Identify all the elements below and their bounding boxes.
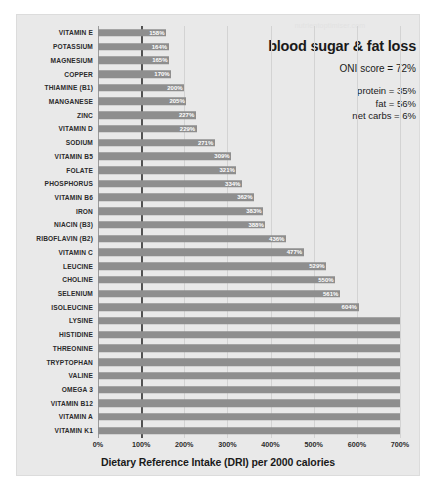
bar xyxy=(98,372,400,380)
bar xyxy=(98,386,400,394)
bar-row: ZINC227% xyxy=(24,108,404,122)
bar xyxy=(98,166,236,174)
bar-track: 334% xyxy=(98,177,404,191)
bar xyxy=(98,235,286,243)
category-label: SODIUM xyxy=(24,139,98,146)
bar-track xyxy=(98,383,404,397)
bar-value-label: 200% xyxy=(167,85,184,91)
category-label: HISTIDINE xyxy=(24,331,98,338)
bar-row: VITAMIN B12 xyxy=(24,396,404,410)
bar-row: COPPER170% xyxy=(24,67,404,81)
bar-track: 170% xyxy=(98,67,404,81)
category-label: COPPER xyxy=(24,71,98,78)
bar-value-label: 164% xyxy=(152,44,169,50)
bar-row: VITAMIN E158% xyxy=(24,26,404,40)
bar-row: ISOLEUCINE604% xyxy=(24,300,404,314)
bar-track xyxy=(98,355,404,369)
bar-track: 158% xyxy=(98,26,404,40)
bar-value-label: 309% xyxy=(214,153,231,159)
bar-value-label: 165% xyxy=(152,57,169,63)
bar-track: 388% xyxy=(98,218,404,232)
bar-track: 164% xyxy=(98,40,404,54)
category-label: VITAMIN K1 xyxy=(24,427,98,434)
bar-row: FOLATE321% xyxy=(24,163,404,177)
bar xyxy=(98,427,400,435)
bar-track xyxy=(98,314,404,328)
bar-row: VITAMIN A xyxy=(24,410,404,424)
bar-track: 561% xyxy=(98,287,404,301)
bar-track: 165% xyxy=(98,53,404,67)
bar-track: 383% xyxy=(98,204,404,218)
x-tick-label: 400% xyxy=(261,440,279,449)
bar-track: 477% xyxy=(98,246,404,260)
bar xyxy=(98,276,335,284)
bar xyxy=(98,413,400,421)
category-label: VITAMIN B5 xyxy=(24,153,98,160)
bar-row: NIACIN (B3)388% xyxy=(24,218,404,232)
bar-row: VITAMIN B6362% xyxy=(24,191,404,205)
bar-row: VALINE xyxy=(24,369,404,383)
bar-track: 205% xyxy=(98,95,404,109)
bar-row: MAGNESIUM165% xyxy=(24,53,404,67)
bar xyxy=(98,262,326,270)
bar-row: LEUCINE529% xyxy=(24,259,404,273)
category-label: POTASSIUM xyxy=(24,43,98,50)
bar xyxy=(98,207,263,215)
category-label: ISOLEUCINE xyxy=(24,304,98,311)
bar xyxy=(98,194,254,202)
bar-value-label: 271% xyxy=(198,140,215,146)
bar-value-label: 561% xyxy=(323,291,340,297)
bar-track xyxy=(98,410,404,424)
category-label: SELENIUM xyxy=(24,290,98,297)
bar xyxy=(98,317,400,325)
bar-value-label: 604% xyxy=(342,304,359,310)
category-label: VITAMIN D xyxy=(24,125,98,132)
bar-value-label: 229% xyxy=(180,126,197,132)
bar-row: PHOSPHORUS334% xyxy=(24,177,404,191)
bar xyxy=(98,331,400,339)
bar xyxy=(98,400,400,408)
bar-row: VITAMIN K1 xyxy=(24,424,404,438)
bar-track: 227% xyxy=(98,108,404,122)
bar-value-label: 227% xyxy=(179,112,196,118)
bar-row: THIAMINE (B1)200% xyxy=(24,81,404,95)
bar-row: VITAMIN C477% xyxy=(24,246,404,260)
x-tick-label: 600% xyxy=(348,440,366,449)
bar-row: SODIUM271% xyxy=(24,136,404,150)
category-label: RIBOFLAVIN (B2) xyxy=(24,235,98,242)
bar-value-label: 205% xyxy=(169,98,186,104)
bar-row: POTASSIUM164% xyxy=(24,40,404,54)
bar-value-label: 550% xyxy=(318,277,335,283)
category-label: VALINE xyxy=(24,372,98,379)
category-label: MAGNESIUM xyxy=(24,57,98,64)
category-label: ZINC xyxy=(24,112,98,119)
bar-value-label: 362% xyxy=(237,194,254,200)
category-label: MANGANESE xyxy=(24,98,98,105)
x-tick-label: 500% xyxy=(305,440,323,449)
category-label: THIAMINE (B1) xyxy=(24,84,98,91)
bar-value-label: 158% xyxy=(149,30,166,36)
bar-track xyxy=(98,342,404,356)
category-label: IRON xyxy=(24,208,98,215)
category-label: VITAMIN A xyxy=(24,413,98,420)
bar-track: 200% xyxy=(98,81,404,95)
category-label: OMEGA 3 xyxy=(24,386,98,393)
category-label: CHOLINE xyxy=(24,276,98,283)
category-label: VITAMIN C xyxy=(24,249,98,256)
bar-row: CHOLINE550% xyxy=(24,273,404,287)
category-label: VITAMIN E xyxy=(24,29,98,36)
bar-track: 271% xyxy=(98,136,404,150)
bar xyxy=(98,249,304,257)
bar-row: HISTIDINE xyxy=(24,328,404,342)
bar-row: MANGANESE205% xyxy=(24,95,404,109)
category-label: LYSINE xyxy=(24,317,98,324)
category-label: NIACIN (B3) xyxy=(24,221,98,228)
bar-value-label: 334% xyxy=(225,181,242,187)
chart-page: nutrientoptimiser.com blood sugar & fat … xyxy=(0,0,434,493)
bar-row: OMEGA 3 xyxy=(24,383,404,397)
bar xyxy=(98,153,231,161)
bar-track: 604% xyxy=(98,300,404,314)
bar-value-label: 321% xyxy=(219,167,236,173)
x-axis-title: Dietary Reference Intake (DRI) per 2000 … xyxy=(16,456,420,468)
x-tick-label: 100% xyxy=(132,440,150,449)
